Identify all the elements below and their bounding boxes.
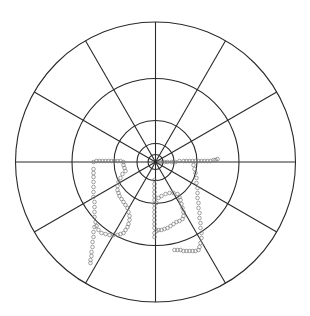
data-point-marker bbox=[92, 167, 96, 171]
spoke-line bbox=[156, 92, 277, 162]
data-point-marker bbox=[92, 190, 96, 194]
spoke-line bbox=[86, 41, 156, 162]
data-point-marker bbox=[92, 171, 96, 175]
data-point-marker bbox=[121, 172, 125, 176]
data-point-marker bbox=[92, 175, 96, 179]
data-point-marker bbox=[196, 196, 200, 200]
data-point-marker bbox=[128, 214, 132, 218]
polar-grid bbox=[16, 22, 296, 302]
spoke-line bbox=[86, 162, 156, 283]
data-point-marker bbox=[93, 205, 97, 209]
data-point-marker bbox=[97, 228, 101, 232]
data-point-marker bbox=[198, 211, 202, 215]
data-point-marker bbox=[193, 167, 197, 171]
series-left-outer-curve bbox=[89, 159, 128, 265]
spoke-line bbox=[156, 162, 277, 232]
data-point-marker bbox=[197, 201, 201, 205]
data-point-marker bbox=[168, 191, 172, 195]
data-point-marker bbox=[116, 184, 120, 188]
data-point-marker bbox=[91, 245, 95, 249]
data-points bbox=[89, 157, 220, 265]
series-bottom-center-curve bbox=[153, 178, 186, 239]
data-point-marker bbox=[196, 191, 200, 195]
data-point-marker bbox=[104, 232, 108, 236]
data-point-marker bbox=[192, 163, 196, 167]
data-point-marker bbox=[195, 181, 199, 185]
data-point-marker bbox=[160, 194, 164, 198]
spoke-line bbox=[156, 162, 226, 283]
data-point-marker bbox=[91, 240, 95, 244]
data-point-marker bbox=[199, 226, 203, 230]
data-point-marker bbox=[195, 176, 199, 180]
spoke-line bbox=[156, 41, 226, 162]
polar-scatter-plot bbox=[0, 0, 310, 316]
data-point-marker bbox=[200, 236, 204, 240]
data-point-marker bbox=[92, 235, 96, 239]
data-point-marker bbox=[198, 216, 202, 220]
data-point-marker bbox=[90, 250, 94, 254]
data-point-marker bbox=[197, 206, 201, 210]
data-point-marker bbox=[92, 180, 96, 184]
data-point-marker bbox=[128, 218, 132, 222]
data-point-marker bbox=[164, 192, 168, 196]
data-point-marker bbox=[119, 176, 123, 180]
data-point-marker bbox=[108, 233, 112, 237]
data-point-marker bbox=[100, 231, 104, 235]
spoke-line bbox=[34, 92, 155, 162]
data-point-marker bbox=[92, 185, 96, 189]
data-point-marker bbox=[93, 210, 97, 214]
data-point-marker bbox=[199, 221, 203, 225]
data-point-marker bbox=[92, 230, 96, 234]
data-point-marker bbox=[90, 254, 94, 258]
data-point-marker bbox=[93, 200, 97, 204]
